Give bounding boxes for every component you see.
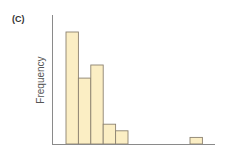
histogram-bar <box>103 124 115 144</box>
histogram-bar <box>116 131 128 144</box>
histogram-bar <box>91 65 103 144</box>
histogram-bar <box>190 137 202 144</box>
histogram-bar <box>78 78 90 144</box>
histogram-bars <box>66 32 202 144</box>
histogram-bar <box>66 32 78 144</box>
histogram-chart <box>0 0 229 162</box>
